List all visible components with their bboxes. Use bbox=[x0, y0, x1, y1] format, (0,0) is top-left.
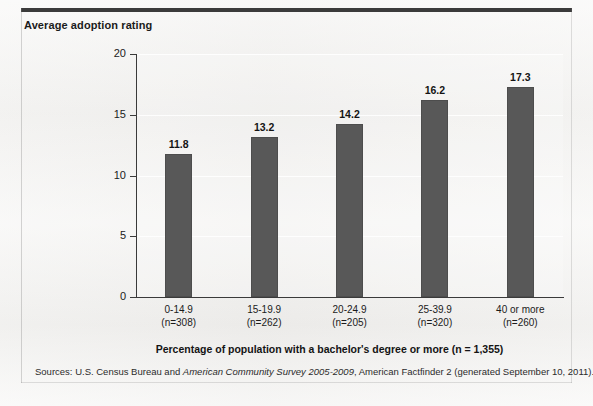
category-sample-size: (n=205) bbox=[305, 316, 395, 329]
left-border-line bbox=[21, 8, 22, 383]
bar-value-label: 11.8 bbox=[149, 138, 209, 150]
bar bbox=[336, 124, 363, 297]
category-range: 40 or more bbox=[496, 304, 544, 315]
y-axis-tick-label: 10 bbox=[66, 169, 126, 181]
x-axis-category-label: 25-39.9(n=320) bbox=[390, 303, 480, 329]
plot-area bbox=[136, 54, 563, 297]
bar bbox=[165, 154, 192, 297]
sources-italic-title: American Community Survey 2005-2009 bbox=[183, 366, 354, 377]
y-axis-tick-label: 15 bbox=[66, 108, 126, 120]
figure-container: Average adoption rating 05101520 11.813.… bbox=[0, 0, 593, 406]
y-axis-tick-label: 0 bbox=[66, 290, 126, 302]
x-axis-category-label: 15-19.9(n=262) bbox=[219, 303, 309, 329]
y-axis-line bbox=[136, 54, 137, 298]
bar bbox=[251, 137, 278, 297]
category-sample-size: (n=308) bbox=[134, 316, 224, 329]
sources-note: Sources: U.S. Census Bureau and American… bbox=[35, 366, 593, 377]
bottom-border-line bbox=[21, 382, 572, 383]
y-axis-tick-mark bbox=[130, 236, 136, 237]
bar-value-label: 13.2 bbox=[234, 121, 294, 133]
category-range: 0-14.9 bbox=[165, 304, 193, 315]
bar bbox=[421, 100, 448, 297]
bar-value-label: 17.3 bbox=[490, 71, 550, 83]
category-sample-size: (n=260) bbox=[475, 316, 565, 329]
x-axis-category-label: 0-14.9(n=308) bbox=[134, 303, 224, 329]
y-axis-tick-mark bbox=[130, 115, 136, 116]
right-border-line bbox=[571, 8, 572, 383]
category-range: 25-39.9 bbox=[418, 304, 452, 315]
top-rule-divider bbox=[21, 8, 572, 12]
y-axis-tick-mark bbox=[130, 54, 136, 55]
sources-prefix: Sources: U.S. Census Bureau and bbox=[35, 366, 183, 377]
sources-suffix: , American Factfinder 2 (generated Septe… bbox=[354, 366, 593, 377]
bar bbox=[507, 87, 534, 297]
y-axis-title: Average adoption rating bbox=[24, 19, 152, 31]
bar-value-label: 16.2 bbox=[405, 84, 465, 96]
category-sample-size: (n=320) bbox=[390, 316, 480, 329]
bar-value-label: 14.2 bbox=[320, 108, 380, 120]
y-axis-tick-labels: 05101520 bbox=[62, 54, 126, 298]
x-axis-category-label: 20-24.9(n=205) bbox=[305, 303, 395, 329]
y-axis-tick-label: 5 bbox=[66, 229, 126, 241]
x-axis-title: Percentage of population with a bachelor… bbox=[0, 343, 593, 355]
category-range: 20-24.9 bbox=[333, 304, 367, 315]
y-axis-tick-label: 20 bbox=[66, 47, 126, 59]
y-axis-tick-mark bbox=[130, 297, 136, 298]
gridline bbox=[136, 54, 563, 55]
y-axis-tick-mark bbox=[130, 176, 136, 177]
x-axis-category-label: 40 or more(n=260) bbox=[475, 303, 565, 329]
x-axis-line bbox=[136, 297, 564, 298]
category-sample-size: (n=262) bbox=[219, 316, 309, 329]
category-range: 15-19.9 bbox=[247, 304, 281, 315]
